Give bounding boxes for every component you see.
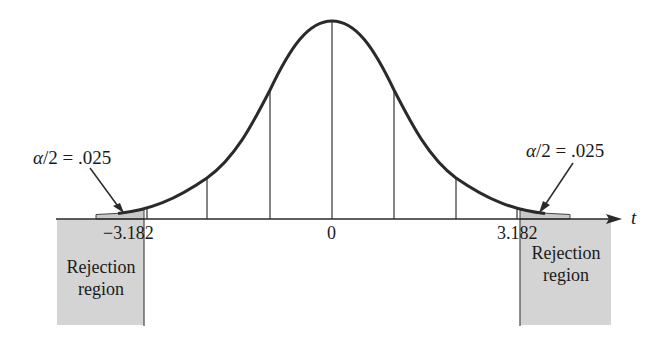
right-rejection-line1: Rejection xyxy=(521,242,611,264)
right-alpha-symbol: α xyxy=(526,140,536,161)
right-alpha-pointer xyxy=(543,163,573,208)
left-alpha-symbol: α xyxy=(33,147,43,168)
tick-left-critical: −3.182 xyxy=(103,224,154,242)
left-rejection-label: Rejection region xyxy=(57,256,145,300)
right-alpha-value: /2 = .025 xyxy=(536,140,604,161)
left-alpha-value: /2 = .025 xyxy=(43,147,111,168)
right-rejection-line2: region xyxy=(521,264,611,286)
left-rejection-line2: region xyxy=(57,278,145,300)
left-alpha-label: α/2 = .025 xyxy=(33,148,111,167)
left-rejection-line1: Rejection xyxy=(57,256,145,278)
axis-label-t: t xyxy=(631,208,636,227)
right-pointer-arrowhead-icon xyxy=(539,201,550,213)
right-alpha-label: α/2 = .025 xyxy=(526,141,604,160)
tick-center: 0 xyxy=(327,224,336,242)
vertical-gridlines xyxy=(147,21,517,219)
right-rejection-label: Rejection region xyxy=(521,242,611,286)
tick-right-critical: 3.182 xyxy=(497,224,538,242)
left-alpha-pointer xyxy=(90,168,120,209)
left-pointer-arrowhead-icon xyxy=(113,203,124,213)
